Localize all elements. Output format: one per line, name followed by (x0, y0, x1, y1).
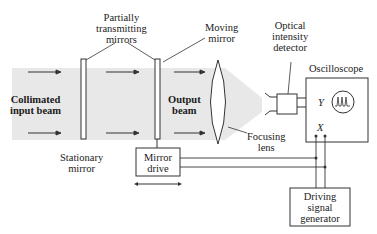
label-focusing-lens: Focusing lens (247, 131, 286, 153)
label-line: lens (247, 142, 286, 153)
label-line: transmitting (96, 23, 147, 34)
stationary-mirror (81, 59, 86, 139)
label-line: mirror (60, 163, 103, 174)
oscilloscope-screen (332, 91, 354, 113)
label-stationary-mirror: Stationary mirror (60, 152, 103, 174)
label-line: mirrors (96, 34, 147, 45)
label-partially-transmitting-mirrors: Partially transmitting mirrors (96, 12, 147, 45)
label-line: Focusing (247, 131, 286, 142)
label-y-input: Y (318, 97, 324, 108)
label-line: detector (272, 42, 308, 53)
optical-intensity-detector (277, 94, 297, 114)
label-moving-mirror: Moving mirror (205, 22, 238, 44)
label-line: Mirror (141, 152, 175, 163)
label-line: Stationary (60, 152, 103, 163)
label-collimated-input-beam: Collimated input beam (10, 94, 61, 116)
label-optical-intensity-detector: Optical intensity detector (272, 20, 308, 53)
label-line: Collimated (10, 94, 61, 105)
label-driving-signal-generator: Driving signal generator (294, 191, 346, 224)
label-line: input beam (10, 105, 61, 116)
label-x-input: X (317, 122, 323, 133)
label-line: Optical (272, 20, 308, 31)
label-line: Output (168, 94, 201, 105)
label-line: Moving (205, 22, 238, 33)
label-line: Driving (294, 191, 346, 202)
label-line: beam (168, 105, 201, 116)
label-line: generator (294, 213, 346, 224)
label-line: intensity (272, 31, 308, 42)
label-line: Partially (96, 12, 147, 23)
label-oscilloscope: Oscilloscope (309, 63, 363, 74)
label-output-beam: Output beam (168, 94, 201, 116)
label-line: drive (141, 163, 175, 174)
label-line: mirror (205, 33, 238, 44)
label-line: signal (294, 202, 346, 213)
moving-mirror (155, 59, 160, 139)
label-mirror-drive: Mirror drive (141, 152, 175, 174)
